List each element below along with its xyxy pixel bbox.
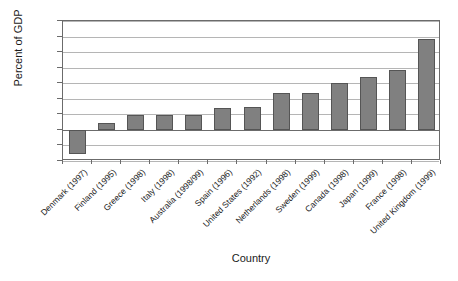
y-tick-mark [57,98,62,99]
gridline [63,83,439,84]
bar [360,77,377,130]
bar [185,115,202,130]
y-axis-title: Percent of GDP [12,0,24,113]
x-tick-mark [62,160,63,164]
bar [98,123,115,130]
bar [273,93,290,130]
y-tick-mark [57,113,62,114]
bar [418,39,435,130]
y-tick-mark [57,67,62,68]
y-tick-mark [57,82,62,83]
bar [156,115,173,130]
gridline [63,37,439,38]
bar [69,130,86,154]
bar-chart: Percent of GDP Country -0.4-0.200.20.40.… [0,0,458,281]
y-tick-mark [57,20,62,21]
gridline [63,99,439,100]
y-tick-mark [57,51,62,52]
y-tick-mark [57,36,62,37]
y-tick-mark [57,129,62,130]
bar [389,70,406,130]
y-tick-mark [57,144,62,145]
x-axis-title: Country [62,252,440,264]
bar [214,108,231,130]
gridline [63,21,439,22]
gridline [63,52,439,53]
gridline [63,68,439,69]
